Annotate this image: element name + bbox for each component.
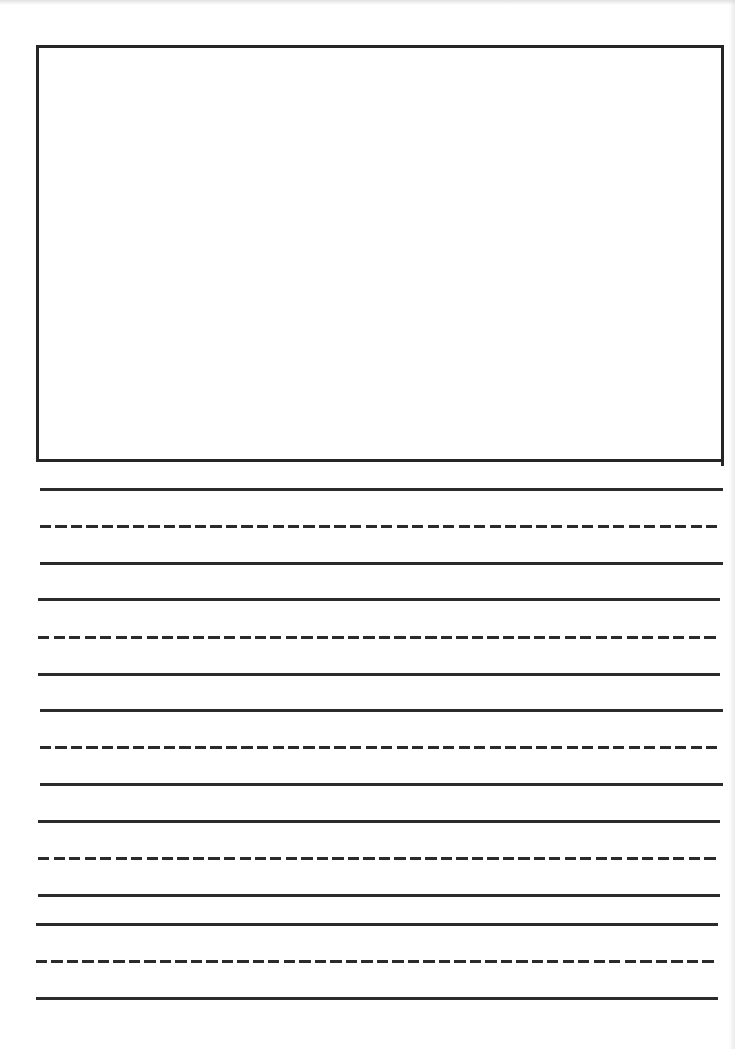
baseline-solid xyxy=(36,997,718,1000)
writing-paper-page: drawing area handwriting lines xyxy=(0,0,735,1049)
top-line-solid xyxy=(36,923,718,926)
top-line-solid xyxy=(38,820,720,823)
midline-dashed xyxy=(40,525,720,528)
drawing-box: drawing area xyxy=(36,45,724,462)
scan-top-edge xyxy=(0,0,735,5)
baseline-solid xyxy=(38,894,720,897)
scan-right-edge xyxy=(729,0,735,1049)
midline-dashed xyxy=(38,857,717,860)
top-line-solid xyxy=(38,598,720,601)
midline-dashed xyxy=(36,960,716,963)
midline-dashed xyxy=(40,746,720,749)
midline-dashed xyxy=(38,636,717,639)
drawing-box-right-edge-overhang xyxy=(721,460,724,466)
baseline-solid xyxy=(38,673,720,676)
top-line-solid xyxy=(40,709,723,712)
baseline-solid xyxy=(40,562,723,565)
top-line-solid xyxy=(40,488,723,491)
drawing-box-label: drawing area xyxy=(39,48,40,49)
baseline-solid xyxy=(40,783,723,786)
